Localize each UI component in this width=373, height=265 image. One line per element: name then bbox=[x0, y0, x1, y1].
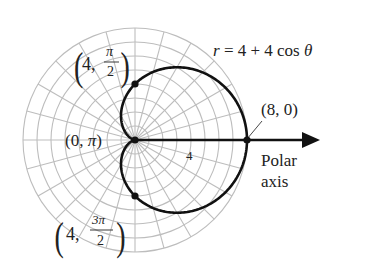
paren-close: ) bbox=[120, 44, 129, 89]
point-label-8-0: (8, 0) bbox=[261, 100, 298, 119]
point-marker bbox=[131, 136, 138, 143]
grid-spoke bbox=[135, 140, 232, 196]
axis-tick-label-4: 4 bbox=[186, 148, 193, 163]
label-frac-bot: 2 bbox=[97, 233, 104, 248]
polar-axis-label-line2: axis bbox=[261, 172, 288, 191]
label-num: 4, bbox=[82, 54, 96, 74]
equation-label: r = 4 + 4 cos θ bbox=[213, 41, 312, 60]
leader-line-8-0 bbox=[247, 121, 262, 139]
grid-spoke bbox=[135, 140, 164, 248]
grid-spoke bbox=[135, 140, 191, 237]
paren-open: ( bbox=[55, 214, 64, 259]
grid-spoke bbox=[135, 32, 164, 140]
point-marker bbox=[243, 136, 250, 143]
polar-cardioid-figure: r = 4 + 4 cos θ (8, 0) Polar axis 4 (0, … bbox=[0, 0, 373, 265]
grid-spoke bbox=[135, 43, 191, 140]
grid-spoke bbox=[135, 111, 243, 140]
label-num: 4, bbox=[66, 224, 80, 244]
arrow-right-icon bbox=[302, 132, 320, 148]
polar-axis-label-line1: Polar bbox=[261, 151, 297, 170]
point-label-0-pi: (0, π) bbox=[65, 131, 102, 150]
paren-close: ) bbox=[116, 214, 125, 259]
point-marker bbox=[131, 192, 138, 199]
grid-spoke bbox=[79, 140, 135, 237]
label-frac-bot: 2 bbox=[107, 64, 114, 79]
point-marker bbox=[131, 80, 138, 87]
grid-spoke bbox=[135, 84, 232, 140]
label-frac-top: 3π bbox=[91, 212, 106, 227]
label-frac-top: π bbox=[106, 44, 114, 59]
